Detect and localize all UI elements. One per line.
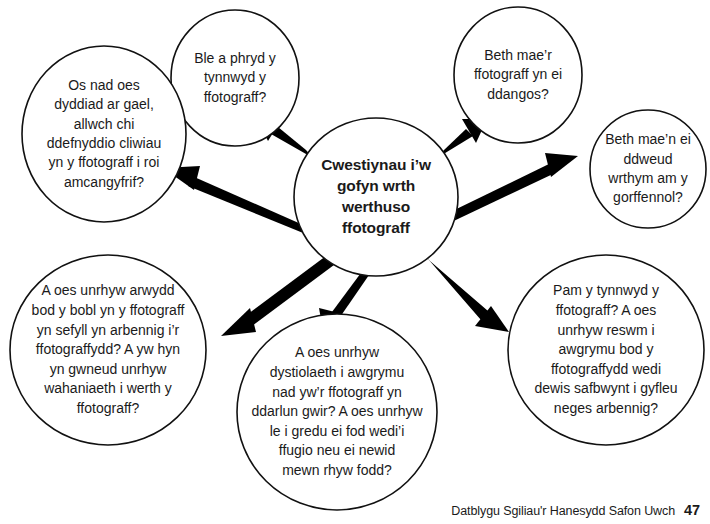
arrow-to-left (163, 166, 313, 237)
bubble-group (10, 7, 706, 510)
bubble-right-shape[interactable] (590, 110, 706, 228)
bubble-bottom-left-shape[interactable] (10, 255, 206, 445)
bubble-bottom-center-shape[interactable] (237, 314, 437, 510)
footer: Datblygu Sgiliau'r Hanesydd Safon Uwch 4… (451, 502, 700, 518)
page-number: 47 (684, 502, 700, 518)
bubble-top-left-shape[interactable] (171, 10, 299, 146)
diagram-canvas: Cwestiynau i’w gofyn wrth werthuso ffoto… (0, 0, 710, 524)
footer-caption: Datblygu Sgiliau'r Hanesydd Safon Uwch (451, 504, 675, 518)
bubble-bottom-right-shape[interactable] (508, 255, 704, 445)
bubble-top-right-shape[interactable] (454, 7, 582, 143)
bubble-left-shape[interactable] (22, 46, 186, 222)
arrow-to-bottom-right (422, 252, 509, 332)
bubble-center-shape[interactable] (294, 118, 458, 276)
diagram-shapes (0, 0, 710, 524)
arrow-to-right (440, 153, 578, 227)
